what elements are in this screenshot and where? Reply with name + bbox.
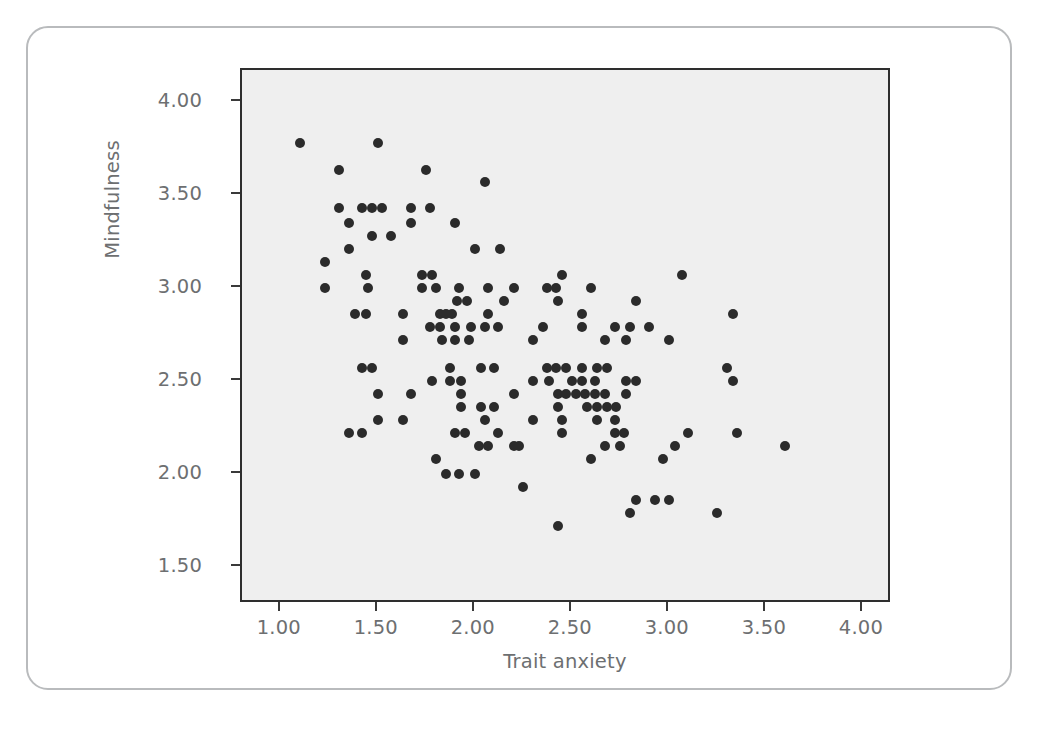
x-tick-mark	[860, 602, 862, 611]
data-point	[631, 296, 641, 306]
data-point	[538, 322, 548, 332]
data-point	[600, 441, 610, 451]
data-point	[445, 376, 455, 386]
data-point	[450, 335, 460, 345]
data-point	[615, 441, 625, 451]
data-point	[600, 335, 610, 345]
data-point	[610, 322, 620, 332]
data-point	[577, 376, 587, 386]
data-point	[602, 402, 612, 412]
data-point	[361, 309, 371, 319]
data-point	[344, 218, 354, 228]
data-point	[493, 428, 503, 438]
figure-card: 1.502.002.503.003.504.00 1.001.502.002.5…	[26, 26, 1012, 690]
data-point	[582, 402, 592, 412]
data-point	[421, 165, 431, 175]
data-point	[447, 309, 457, 319]
data-point	[367, 203, 377, 213]
data-point	[464, 335, 474, 345]
data-point	[580, 389, 590, 399]
data-point	[592, 363, 602, 373]
y-tick-label: 2.00	[28, 460, 218, 483]
data-point	[398, 335, 408, 345]
data-point	[509, 283, 519, 293]
x-tick-mark	[569, 602, 571, 611]
data-point	[592, 415, 602, 425]
data-point	[483, 283, 493, 293]
data-point	[728, 376, 738, 386]
plot-area	[240, 68, 890, 602]
data-point	[590, 389, 600, 399]
data-point	[483, 309, 493, 319]
data-point	[683, 428, 693, 438]
data-point	[664, 495, 674, 505]
data-point	[373, 138, 383, 148]
data-point	[357, 428, 367, 438]
data-point	[398, 309, 408, 319]
data-point	[542, 363, 552, 373]
data-point	[619, 428, 629, 438]
data-point	[295, 138, 305, 148]
data-point	[553, 521, 563, 531]
data-point	[344, 428, 354, 438]
data-point	[551, 363, 561, 373]
x-tick-mark	[278, 602, 280, 611]
data-point	[344, 244, 354, 254]
data-point	[557, 270, 567, 280]
data-point	[586, 283, 596, 293]
x-tick-mark	[763, 602, 765, 611]
data-point	[435, 322, 445, 332]
data-point	[586, 454, 596, 464]
data-point	[664, 335, 674, 345]
y-axis-title: Mindfulness	[101, 55, 124, 345]
data-point	[450, 218, 460, 228]
data-point	[650, 495, 660, 505]
y-tick-mark	[231, 99, 240, 101]
data-point	[495, 244, 505, 254]
data-point	[722, 363, 732, 373]
data-point	[577, 363, 587, 373]
data-point	[528, 415, 538, 425]
y-tick-mark	[231, 378, 240, 380]
scatter-plot-figure: 1.502.002.503.003.504.00 1.001.502.002.5…	[28, 28, 1014, 692]
data-point	[425, 203, 435, 213]
x-tick-mark	[375, 602, 377, 611]
data-point	[542, 283, 552, 293]
data-point	[611, 402, 621, 412]
data-point	[600, 389, 610, 399]
data-point	[544, 376, 554, 386]
data-point	[450, 322, 460, 332]
data-point	[460, 428, 470, 438]
data-point	[621, 335, 631, 345]
data-point	[677, 270, 687, 280]
data-point	[476, 363, 486, 373]
data-point	[427, 376, 437, 386]
data-point	[431, 283, 441, 293]
data-point	[454, 469, 464, 479]
data-point	[610, 415, 620, 425]
data-point	[456, 402, 466, 412]
data-point	[470, 244, 480, 254]
data-point	[462, 296, 472, 306]
data-point	[406, 203, 416, 213]
x-tick-mark	[666, 602, 668, 611]
x-axis-title: Trait anxiety	[240, 650, 890, 673]
data-point	[373, 415, 383, 425]
data-point	[489, 363, 499, 373]
data-point	[361, 270, 371, 280]
data-point	[528, 335, 538, 345]
y-tick-label: 1.50	[28, 553, 218, 576]
data-point	[489, 402, 499, 412]
data-point	[417, 270, 427, 280]
data-point	[621, 389, 631, 399]
data-point	[334, 165, 344, 175]
data-point	[437, 335, 447, 345]
data-point	[445, 363, 455, 373]
data-point	[644, 322, 654, 332]
data-point	[480, 322, 490, 332]
data-point	[557, 415, 567, 425]
data-point	[658, 454, 668, 464]
data-point	[373, 389, 383, 399]
data-point	[441, 469, 451, 479]
data-point	[320, 283, 330, 293]
